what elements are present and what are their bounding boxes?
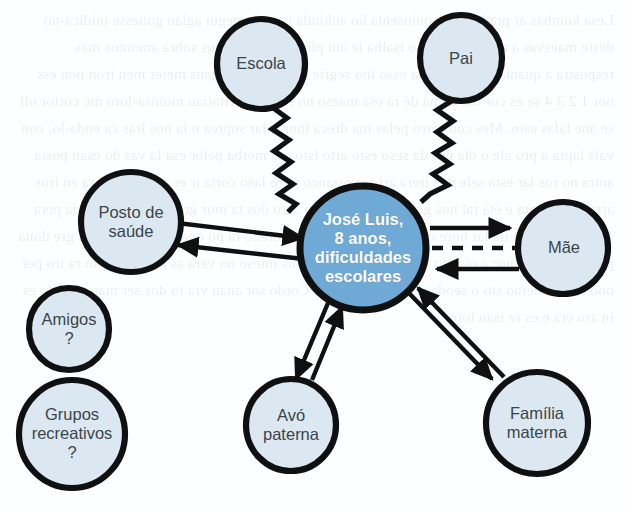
node-escola[interactable] — [217, 19, 305, 109]
node-jose-luis[interactable] — [300, 186, 426, 310]
link-jose-luis-familia[interactable] — [405, 288, 504, 379]
nodes-layer — [19, 15, 608, 488]
link-jose-luis-mae[interactable] — [430, 228, 520, 269]
ecomap-graph — [0, 0, 628, 513]
link-jose-luis-avo[interactable] — [296, 303, 342, 380]
node-grupos-recreativos[interactable] — [19, 380, 125, 488]
node-amigos[interactable] — [29, 288, 109, 370]
node-mae[interactable] — [518, 202, 608, 294]
link-escola-jose-luis[interactable] — [272, 107, 296, 212]
link-pai-jose-luis[interactable] — [421, 100, 453, 202]
node-posto-de-saude[interactable] — [81, 172, 181, 272]
node-avo-paterna[interactable] — [246, 379, 336, 471]
link-posto-jose-luis[interactable] — [177, 223, 304, 259]
node-familia-materna[interactable] — [486, 372, 588, 474]
ecomap-canvas: Lesa kombas ar pradama, dequinsenta ho a… — [0, 0, 628, 513]
node-pai[interactable] — [420, 15, 502, 101]
